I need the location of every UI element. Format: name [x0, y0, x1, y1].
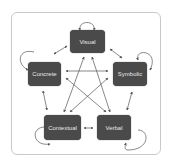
node-concrete: Concrete: [28, 62, 61, 86]
edge-visual-symbolic: [110, 49, 122, 58]
node-symbolic: Symbolic: [113, 62, 147, 86]
edge-symbolic-verbal: [127, 92, 132, 110]
edge-visual-concrete: [54, 46, 67, 54]
edge-symbolic-contextual: [70, 78, 108, 112]
self-loop-visual: [80, 23, 94, 31]
edge-concrete-verbal: [66, 78, 106, 112]
node-contextual: Contextual: [44, 115, 81, 140]
node-visual: Visual: [70, 30, 105, 53]
node-verbal: Verbal: [97, 115, 131, 140]
edge-concrete-contextual: [43, 91, 47, 110]
